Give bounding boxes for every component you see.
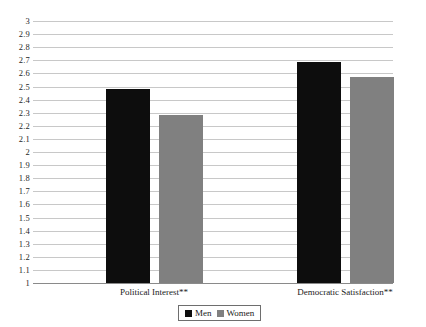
legend-item-men: Men [185, 309, 212, 318]
x-axis-category-label: Political Interest** [64, 288, 244, 297]
y-axis-tick-label: 2.9 [0, 30, 30, 39]
gridline [33, 34, 393, 35]
plot-area [33, 21, 393, 283]
y-axis-tick-label: 2.7 [0, 56, 30, 65]
y-axis-tick-label: 1.7 [0, 187, 30, 196]
y-axis-tick-label: 1 [0, 279, 30, 288]
grouped-bar-chart: 32.92.82.72.62.52.42.32.22.121.91.81.71.… [0, 0, 426, 327]
legend-item-women: Women [217, 309, 255, 318]
y-axis-tick-label: 2 [0, 148, 30, 157]
y-axis-tick-label: 1.1 [0, 266, 30, 275]
y-axis-tick-label: 1.8 [0, 174, 30, 183]
gridline [33, 47, 393, 48]
y-axis-tick-label: 2.2 [0, 122, 30, 131]
bar-women-1 [350, 77, 394, 283]
legend-label: Women [227, 309, 255, 318]
y-axis-tick-label: 2.5 [0, 83, 30, 92]
y-axis-tick-label: 2.3 [0, 109, 30, 118]
x-axis-category-label: Democratic Satisfaction** [255, 288, 426, 297]
legend-swatch-women-icon [217, 310, 224, 317]
y-axis-tick-label: 1.5 [0, 214, 30, 223]
y-axis-tick-label: 1.3 [0, 240, 30, 249]
gridline [33, 21, 393, 22]
y-axis-tick-label: 2.6 [0, 69, 30, 78]
y-axis-tick-label: 1.2 [0, 253, 30, 262]
gridline [33, 283, 393, 284]
bar-men-0 [106, 89, 150, 283]
y-axis-tick-label: 2.1 [0, 135, 30, 144]
y-axis-tick-label: 2.4 [0, 96, 30, 105]
legend-swatch-men-icon [185, 310, 192, 317]
chart-legend: MenWomen [178, 305, 261, 321]
legend-label: Men [195, 309, 212, 318]
y-axis-tick-label: 1.9 [0, 161, 30, 170]
y-axis-tick-label: 1.6 [0, 200, 30, 209]
bar-women-0 [159, 115, 203, 283]
y-axis-tick-label: 3 [0, 17, 30, 26]
y-axis-tick-label: 1.4 [0, 227, 30, 236]
bar-men-1 [297, 62, 341, 283]
y-axis-tick-label: 2.8 [0, 43, 30, 52]
